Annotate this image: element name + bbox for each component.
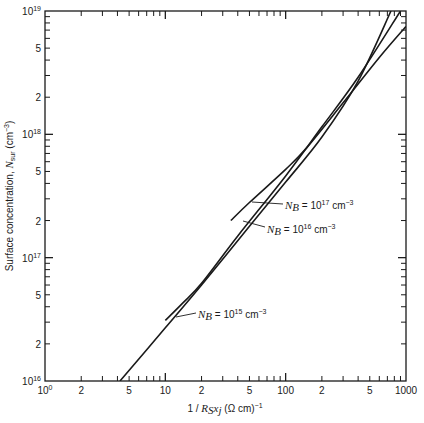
- x-tick-label: 100: [277, 385, 294, 396]
- curve-label-nb-16: NB = 1016 cm−3: [266, 223, 336, 237]
- curves: [120, 11, 406, 381]
- x-tick-label: 2: [78, 385, 84, 396]
- x-tick-labels: 100251025100251000: [37, 384, 417, 396]
- y-tick-label: 1019: [22, 5, 41, 17]
- x-tick-label: 2: [199, 385, 205, 396]
- x-tick-label: 5: [367, 385, 373, 396]
- plot-frame: [45, 11, 406, 381]
- curve-nb-15: [165, 11, 400, 320]
- y-tick-label: 2: [35, 216, 41, 227]
- axis-ticks: [45, 11, 406, 381]
- curve-annotations: NB = 1015 cm−3NB = 1016 cm−3NB = 1017 cm…: [176, 199, 354, 322]
- log-log-chart: 100251025100251000 101625101725101825101…: [0, 0, 424, 423]
- x-axis-label: 1 / RSxj (Ω cm)−1: [187, 402, 262, 416]
- y-tick-label: 2: [35, 339, 41, 350]
- x-tick-label: 5: [126, 385, 132, 396]
- x-tick-label: 100: [37, 384, 52, 396]
- leader-line: [176, 313, 196, 317]
- y-tick-label: 1018: [22, 128, 41, 140]
- curve-label-nb-15: NB = 1015 cm−3: [197, 308, 267, 322]
- y-tick-label: 2: [35, 92, 41, 103]
- x-tick-label: 10: [160, 385, 172, 396]
- x-tick-label: 2: [319, 385, 325, 396]
- y-tick-label: 5: [35, 43, 41, 54]
- x-tick-label: 1000: [395, 385, 418, 396]
- y-tick-label: 5: [35, 290, 41, 301]
- y-axis-label: Surface concentration, Nsur (cm−3): [3, 121, 16, 272]
- x-tick-label: 5: [247, 385, 253, 396]
- y-tick-label: 1017: [22, 252, 41, 264]
- curve-nb-17: [231, 26, 406, 220]
- y-tick-label: 5: [35, 166, 41, 177]
- y-tick-labels: 1016251017251018251019: [22, 5, 41, 387]
- curve-label-nb-17: NB = 1017 cm−3: [284, 199, 354, 213]
